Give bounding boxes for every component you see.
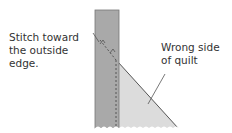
stitch-label-line: edge. [9,57,79,70]
stitch-label-line: the outside [9,44,79,57]
wrong-side-label-line: of quilt [161,54,220,67]
wrong-side-label: Wrong side of quilt [161,41,220,67]
wrong-side-label-line: Wrong side [161,41,220,54]
stitch-label: Stitch toward the outside edge. [9,31,79,70]
leader-line-wrong-side [148,74,165,104]
binding-strip [95,10,119,128]
stitch-label-line: Stitch toward [9,31,79,44]
